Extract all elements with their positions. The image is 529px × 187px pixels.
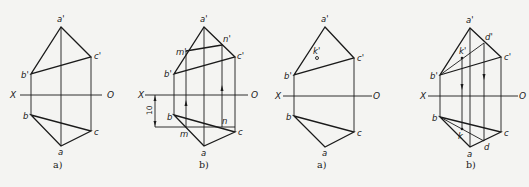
figure-caption: b) [466, 159, 476, 170]
label-b: b [167, 112, 172, 122]
label-b-prime: b' [21, 70, 29, 80]
axis-label-o: O [107, 90, 114, 100]
axis-label-x: X [419, 91, 427, 101]
label-a-prime: a' [200, 14, 208, 24]
figure-caption: b) [199, 159, 209, 170]
arrow-up-icon [154, 96, 157, 101]
arrow-up-icon [221, 85, 224, 91]
label-c-prime: c' [504, 52, 511, 62]
label-c-prime: c' [237, 51, 244, 61]
axis-label-o: O [251, 90, 258, 100]
top-view-triangle [294, 116, 354, 147]
label-m: m [180, 129, 188, 139]
label-a: a [58, 147, 63, 157]
label-k-prime: k' [313, 46, 320, 56]
arrow-down-icon [154, 121, 157, 126]
axis-label-o: O [519, 91, 526, 101]
label-b-prime: b' [164, 69, 172, 79]
point-k-prime [461, 57, 464, 60]
label-c: c [238, 127, 243, 137]
figure-2-triangle-projection: 10 X O a' n' c' m' b' b n c m a b) [137, 14, 258, 170]
point-k [461, 128, 464, 131]
label-c: c [504, 128, 509, 138]
point-k-prime [316, 57, 319, 60]
label-b: b [286, 112, 291, 122]
label-a-prime: a' [321, 14, 329, 24]
label-a: a [467, 149, 472, 159]
label-a: a [201, 148, 206, 158]
label-c: c [357, 128, 362, 138]
figure-caption: a) [53, 159, 62, 170]
label-m-prime: m' [176, 47, 187, 57]
label-a-prime: a' [57, 14, 65, 24]
label-b-prime: b' [284, 71, 292, 81]
figure-4-triangle-projection: X O a' d' k' c' b' b k c d a b) [419, 15, 526, 170]
axis-label-x: X [9, 90, 17, 100]
dimension-value: 10 [145, 105, 154, 115]
label-c-prime: c' [94, 51, 101, 61]
label-d: d [484, 142, 490, 152]
arrow-down-icon [461, 84, 464, 90]
label-b: b [432, 113, 437, 123]
label-b: b [23, 111, 28, 121]
label-n-prime: n' [223, 34, 231, 44]
label-a-prime: a' [466, 15, 474, 25]
label-d-prime: d' [485, 32, 493, 42]
front-view-triangle [294, 27, 354, 75]
arrow-up-icon [185, 100, 188, 106]
label-b-prime: b' [430, 71, 438, 81]
axis-label-o: O [373, 91, 380, 101]
axis-label-x: X [137, 90, 145, 100]
figure-caption: a) [317, 159, 326, 170]
figure-3-triangle-projection: X O a' k' c' b' b c a a) [274, 14, 380, 170]
label-c-prime: c' [357, 53, 364, 63]
figure-1-triangle-projection: X O a' c' b' b c a a) [9, 14, 114, 170]
label-a: a [322, 148, 327, 158]
label-c: c [94, 127, 99, 137]
arrow-down-icon [483, 74, 486, 80]
descriptive-geometry-figures: X O a' c' b' b c a a) 10 X O a' n' c' [0, 0, 529, 187]
label-k-prime: k' [459, 46, 466, 56]
axis-label-x: X [274, 91, 282, 101]
label-n: n [222, 116, 227, 126]
